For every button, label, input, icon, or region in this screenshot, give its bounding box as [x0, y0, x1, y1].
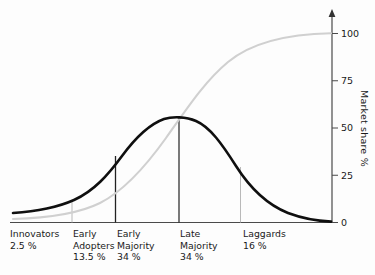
- y-tick-label-100: 100: [341, 29, 359, 39]
- segment-label-laggards: Laggards 16 %: [243, 228, 286, 251]
- adoption-curve-chart: 100 75 50 25 0 Market share % Innovators…: [0, 0, 375, 275]
- segment-label-late-majority: Late Majority 34 %: [180, 228, 218, 263]
- segment-label-innovators: Innovators 2.5 %: [10, 228, 59, 251]
- adoption-bell-curve: [13, 117, 331, 221]
- y-tick-label-50: 50: [341, 123, 353, 133]
- cumulative-s-curve: [13, 33, 331, 219]
- segment-label-early-adopters: Early Adopters 13.5 %: [73, 228, 115, 263]
- y-tick-label-25: 25: [341, 171, 353, 181]
- segment-percent: 34 %: [180, 251, 218, 263]
- segment-percent: 13.5 %: [73, 251, 115, 263]
- segment-label-early-majority: Early Majority 34 %: [117, 228, 155, 263]
- segment-percent: 2.5 %: [10, 240, 59, 252]
- y-axis-arrow-icon: [329, 9, 336, 17]
- segment-percent: 16 %: [243, 240, 286, 252]
- segment-name-line2: Adopters: [73, 240, 115, 252]
- segment-name-line2: Majority: [180, 240, 218, 252]
- y-axis-title: Market share %: [359, 90, 370, 167]
- segment-name-line1: Early: [117, 228, 155, 240]
- segment-percent: 34 %: [117, 251, 155, 263]
- y-tick-label-75: 75: [341, 76, 353, 86]
- segment-name-line2: Majority: [117, 240, 155, 252]
- segment-name-line1: Early: [73, 228, 115, 240]
- segment-name-line1: Innovators: [10, 228, 59, 240]
- segment-name-line1: Laggards: [243, 228, 286, 240]
- segment-name-line1: Late: [180, 228, 218, 240]
- y-tick-label-0: 0: [341, 218, 347, 228]
